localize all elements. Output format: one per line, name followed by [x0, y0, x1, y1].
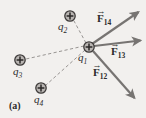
charge-label-q1: q1: [78, 52, 87, 66]
force-diagram-figure: q1 q2 q3 q4 →F14 →F13 →F12 (a): [0, 0, 146, 118]
charge-q1-marker: [84, 42, 94, 52]
dashed-line-q1-q3: [26, 46, 84, 59]
charge-label-q4: q4: [34, 94, 43, 108]
dashed-lines-group: [26, 21, 86, 85]
charge-label-q3-subscript: 3: [19, 71, 23, 80]
vector-arrow-icon: →: [111, 40, 120, 49]
vector-arrow-icon: →: [97, 7, 106, 16]
charge-label-q2-subscript: 2: [64, 26, 68, 35]
charge-label-q1-subscript: 1: [84, 57, 88, 66]
dashed-line-q1-q2: [74, 21, 86, 43]
force-label-F12: →F12: [93, 67, 107, 81]
force-label-F13: →F13: [111, 46, 125, 60]
force-label-F13-subscript: 13: [118, 51, 126, 60]
charge-label-q2: q2: [58, 21, 67, 35]
force-label-F14-symbol: →F: [97, 13, 104, 24]
vector-arrow-icon: →: [93, 61, 102, 70]
panel-label: (a): [9, 101, 21, 111]
force-label-F14-subscript: 14: [104, 18, 112, 27]
force-label-F12-subscript: 12: [100, 72, 108, 81]
force-label-F14: →F14: [97, 13, 111, 27]
charge-q2-marker: [65, 11, 75, 21]
charge-q4-marker: [36, 83, 46, 93]
force-label-F13-symbol: →F: [111, 46, 118, 57]
force-label-F12-symbol: →F: [93, 67, 100, 78]
charge-q3-marker: [15, 55, 25, 65]
charge-label-q4-subscript: 4: [40, 99, 44, 108]
charge-label-q3: q3: [13, 66, 22, 80]
